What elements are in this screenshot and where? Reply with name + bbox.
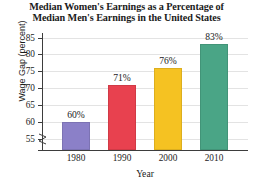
bar-value-2000: 76% [145, 55, 191, 66]
bar-1990[interactable] [108, 85, 136, 150]
x-axis-title: Year [42, 168, 248, 179]
y-tick-label-60: 60 [26, 117, 35, 127]
bar-group-2010: 83% 2010 [191, 33, 237, 150]
y-tick-80 [38, 54, 43, 55]
bar-group-1990: 71% 1990 [99, 33, 145, 150]
y-tick-75 [38, 71, 43, 72]
bar-value-2010: 83% [191, 31, 237, 42]
y-tick-label-75: 75 [26, 66, 35, 76]
chart-title-line-2: Median Men's Earnings in the United Stat… [0, 12, 253, 23]
chart-title: Median Women's Earnings as a Percentage … [0, 1, 253, 24]
y-tick-label-65: 65 [26, 100, 35, 110]
y-tick-60 [38, 122, 43, 123]
x-tick-label-2010: 2010 [191, 153, 237, 163]
y-tick-label-85: 85 [26, 33, 35, 43]
plot-area: 85 80 75 70 65 60 55 [42, 33, 248, 150]
y-tick-label-70: 70 [26, 83, 35, 93]
x-tick-label-2000: 2000 [145, 153, 191, 163]
chart-title-line-1: Median Women's Earnings as a Percentage … [0, 1, 253, 12]
bar-2010[interactable] [200, 44, 228, 150]
x-tick-label-1980: 1980 [53, 153, 99, 163]
bar-2000[interactable] [154, 68, 182, 150]
bar-value-1980: 60% [53, 109, 99, 120]
y-tick-85 [38, 38, 43, 39]
bar-group-2000: 76% 2000 [145, 33, 191, 150]
y-tick-70 [38, 88, 43, 89]
bar-1980[interactable] [62, 122, 90, 150]
axis-break-icon [38, 133, 48, 147]
y-tick-label-80: 80 [26, 49, 35, 59]
bar-chart: Median Women's Earnings as a Percentage … [0, 0, 253, 185]
y-tick-label-55: 55 [26, 134, 35, 144]
bar-value-1990: 71% [99, 72, 145, 83]
x-tick-label-1990: 1990 [99, 153, 145, 163]
bar-group-1980: 60% 1980 [53, 33, 99, 150]
x-axis-line [38, 150, 248, 151]
y-tick-65 [38, 105, 43, 106]
